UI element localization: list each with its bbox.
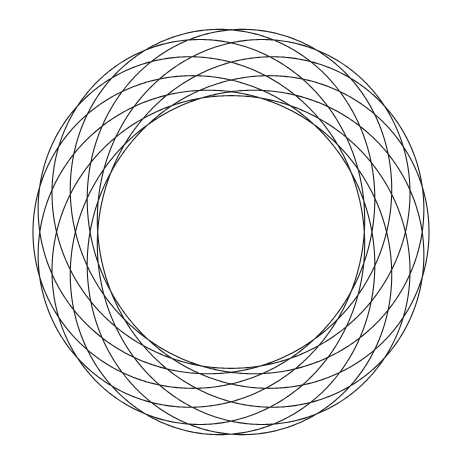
spirograph-canvas xyxy=(0,0,457,468)
spirograph-curve xyxy=(33,29,429,434)
